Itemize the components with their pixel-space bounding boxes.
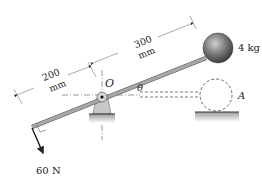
diagram: 200 mm 300 mm O θ 4 kg A 60 N xyxy=(0,0,262,184)
mass-label: 4 kg xyxy=(238,43,260,53)
dim-line-200-b xyxy=(68,66,91,75)
ball-position-a xyxy=(200,79,232,111)
dim-ext-right xyxy=(190,16,196,29)
ball-4kg xyxy=(203,33,233,63)
force-label: 60 N xyxy=(36,166,61,176)
dim-line-200-a xyxy=(17,88,34,95)
dim-ext-left xyxy=(14,89,22,104)
diagram-graphics xyxy=(0,0,262,184)
angle-label: θ xyxy=(137,83,143,93)
dim-line-300-b xyxy=(158,23,193,37)
pivot-ground xyxy=(89,114,115,123)
dim-ext-mid xyxy=(88,62,96,77)
ground-a xyxy=(195,112,239,122)
position-a-label: A xyxy=(238,91,245,101)
pivot-pin xyxy=(100,95,103,98)
pivot-label: O xyxy=(105,79,114,89)
dim-line-300-a xyxy=(93,53,118,63)
